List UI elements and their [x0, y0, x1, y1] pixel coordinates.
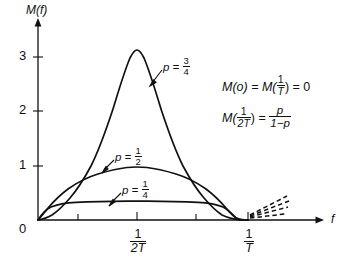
y-axis-label: M(f) — [26, 4, 47, 16]
equation-2-part-a: M( — [222, 111, 237, 125]
x-tick-half-T: 1 2T — [127, 228, 149, 255]
curve-label-p-three-quarters-den: 4 — [183, 67, 190, 77]
plot-canvas — [0, 0, 345, 263]
equation-boundary-values: M(o) = M( 1 T ) = 0 — [222, 74, 310, 97]
curve-label-p-one-quarter: p = 1 4 — [122, 179, 149, 200]
curve-label-p-one-half-lead: p = — [115, 151, 131, 163]
y-tick-1: 1 — [19, 158, 26, 171]
x-tick-one-over-T-denominator: T — [244, 242, 254, 255]
curve-label-p-three-quarters-lead: p = — [163, 61, 179, 73]
equation-2-numerator: 1 — [237, 106, 251, 118]
x-tick-half-T-numerator: 1 — [130, 228, 147, 242]
equation-1-denominator: T — [277, 86, 285, 97]
curve-label-p-one-half-den: 2 — [135, 157, 142, 167]
equation-2-denominator: 2T — [237, 118, 251, 129]
equation-1-part-a: M(o) = M( — [222, 80, 277, 94]
curve-label-p-three-quarters: p = 3 4 — [163, 56, 190, 77]
equation-1-part-b: ) = 0 — [285, 80, 310, 94]
origin-label: 0 — [19, 222, 26, 235]
curve-label-p-one-half: p = 1 2 — [115, 146, 142, 167]
equation-2-part-b: ) = — [251, 111, 266, 125]
y-tick-3: 3 — [19, 49, 26, 62]
curve-label-p-one-quarter-lead: p = — [122, 184, 138, 196]
figure-spectral-density: M(f) 3 2 1 0 f 1 2T 1 T p = 3 4 p = 1 2 … — [0, 0, 345, 263]
equation-2-right-denominator: 1−p — [269, 117, 291, 129]
x-tick-one-over-T: 1 T — [240, 228, 258, 255]
x-tick-one-over-T-numerator: 1 — [244, 228, 254, 242]
y-axis — [33, 18, 43, 220]
x-axis-label: f — [331, 213, 334, 225]
y-tick-2: 2 — [19, 103, 26, 116]
equation-peak-value: M( 1 2T ) = p 1−p — [222, 104, 291, 129]
equation-2-right-numerator: p — [269, 104, 291, 117]
curve-label-p-one-quarter-den: 4 — [142, 190, 149, 200]
x-tick-half-T-denominator: 2T — [130, 242, 147, 255]
dashed-rays — [250, 196, 289, 218]
